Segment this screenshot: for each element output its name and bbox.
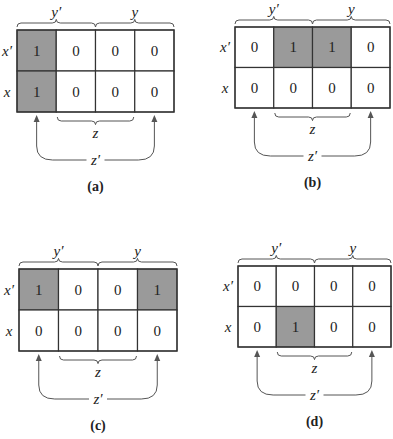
kmap-cell-value: 0	[253, 278, 261, 294]
kmap-cell-value: 0	[289, 80, 297, 96]
kmap-caption: (b)	[304, 175, 321, 191]
kmap-cell-value: 0	[75, 323, 83, 339]
row-label-x-prime: x′	[3, 282, 15, 298]
kmap-cell-value: 0	[367, 39, 375, 55]
kmap-cell-value: 0	[368, 278, 376, 294]
kmap-cell-value: 1	[33, 43, 41, 59]
kmap-caption: (a)	[87, 179, 104, 195]
kmap-cell-value: 0	[154, 323, 162, 339]
col-label-y: y	[132, 243, 141, 259]
col-label-y-prime: y′	[267, 1, 280, 17]
kmap-a: 10001000x′xy′yzz′(a)	[1, 4, 174, 195]
kmap-cell-value: 0	[75, 282, 83, 298]
kmap-cell-value: 0	[328, 80, 336, 96]
brace-y-prime	[238, 255, 315, 263]
kmap-cell-value: 0	[151, 43, 159, 59]
arrowhead-icon	[154, 354, 160, 361]
kmap-cell-value: 1	[289, 39, 297, 55]
col-label-y-prime: y′	[269, 240, 282, 256]
kmap-cell-value: 1	[154, 282, 162, 298]
col-label-y: y	[129, 4, 138, 20]
arrowhead-icon	[368, 111, 374, 118]
col-label-y-prime: y′	[49, 4, 62, 20]
kmap-cell-value: 0	[114, 323, 122, 339]
brace-y	[313, 16, 391, 24]
label-z: z	[94, 364, 101, 380]
label-z-prime: z′	[92, 391, 103, 407]
row-label-x-prime: x′	[1, 43, 13, 59]
arrowhead-icon	[254, 350, 260, 357]
label-z: z	[92, 125, 99, 141]
arrow-z-prime-left	[39, 358, 89, 399]
brace-y-prime	[235, 16, 313, 24]
kmap-cell-value: 0	[330, 278, 338, 294]
row-label-x-prime: x′	[219, 39, 231, 55]
arrow-z-prime-right	[105, 119, 155, 160]
kmap-cell-value: 0	[367, 80, 375, 96]
arrowhead-icon	[34, 115, 40, 122]
kmap-cell-value: 0	[114, 282, 122, 298]
kmap-cell-value: 0	[251, 80, 259, 96]
kmap-cell-value: 0	[368, 319, 376, 335]
row-label-x: x	[221, 80, 229, 96]
arrow-z-prime-left	[257, 354, 305, 395]
kmap-cell-value: 0	[35, 323, 43, 339]
brace-y-prime	[17, 19, 96, 27]
arrow-z-prime-right	[324, 354, 372, 395]
label-z-prime: z′	[309, 387, 320, 403]
label-z: z	[311, 360, 318, 376]
kmap-cell-value: 0	[292, 278, 300, 294]
label-z: z	[309, 121, 316, 137]
kmap-cell-value: 0	[72, 43, 80, 59]
label-z-prime: z′	[307, 148, 318, 164]
arrow-z-prime-right	[322, 115, 371, 156]
kmap-cell-value: 1	[35, 282, 43, 298]
kmap-cell-value: 0	[151, 84, 159, 100]
brace-z	[60, 356, 137, 364]
brace-z	[277, 352, 352, 360]
kmap-d: 00000100x′xy′yzz′(d)	[222, 240, 391, 430]
kmap-cell-value: 0	[253, 319, 261, 335]
kmap-cell-value: 0	[251, 39, 259, 55]
row-label-x: x	[3, 84, 11, 100]
col-label-y: y	[346, 1, 355, 17]
arrowhead-icon	[251, 111, 257, 118]
kmap-cell-value: 1	[33, 84, 41, 100]
kmap-cell-value: 1	[292, 319, 300, 335]
brace-z	[275, 113, 351, 121]
kmap-cell-value: 1	[328, 39, 336, 55]
kmap-cell-value: 0	[111, 43, 119, 59]
kmap-cell-value: 0	[72, 84, 80, 100]
brace-y	[315, 255, 392, 263]
row-label-x: x	[5, 323, 13, 339]
brace-z	[57, 117, 134, 125]
kmap-b: 01100000x′xy′yzz′(b)	[219, 1, 390, 191]
arrow-z-prime-left	[254, 115, 303, 156]
karnaugh-maps-figure: 10001000x′xy′yzz′(a)01100000x′xy′yzz′(b)…	[0, 0, 393, 439]
brace-y	[98, 258, 177, 266]
arrow-z-prime-right	[107, 358, 157, 399]
col-label-y-prime: y′	[52, 243, 65, 259]
arrowhead-icon	[369, 350, 375, 357]
kmap-caption: (c)	[90, 418, 106, 434]
arrowhead-icon	[36, 354, 42, 361]
row-label-x-prime: x′	[222, 278, 234, 294]
arrowhead-icon	[151, 115, 157, 122]
kmap-caption: (d)	[306, 414, 323, 430]
kmap-cell-value: 0	[111, 84, 119, 100]
col-label-y: y	[347, 240, 356, 256]
row-label-x: x	[224, 319, 232, 335]
arrow-z-prime-left	[37, 119, 87, 160]
brace-y-prime	[19, 258, 98, 266]
brace-y	[96, 19, 175, 27]
kmap-c: 10010000x′xy′yzz′(c)	[3, 243, 177, 434]
label-z-prime: z′	[90, 152, 101, 168]
kmap-cell-value: 0	[330, 319, 338, 335]
